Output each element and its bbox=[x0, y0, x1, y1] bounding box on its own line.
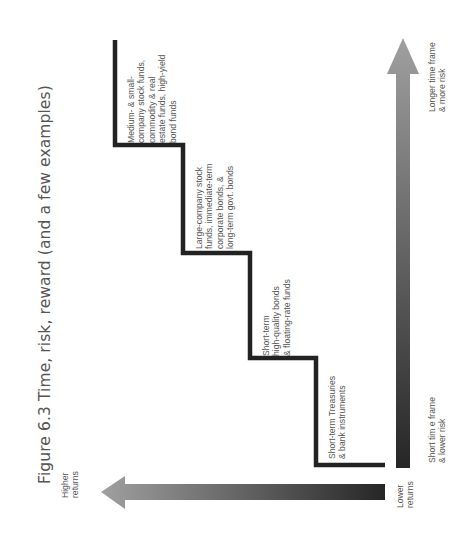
diagram-canvas bbox=[0, 0, 470, 536]
returns-arrow-icon bbox=[101, 476, 385, 509]
short-time-lower-risk-label: Short tim e frame & lower risk bbox=[427, 397, 448, 463]
longer-time-more-risk-label: Longer time frame & more risk bbox=[427, 42, 448, 112]
lower-returns-label: Lower returns bbox=[395, 481, 416, 508]
time-risk-arrow-icon bbox=[387, 38, 419, 468]
step-1-label: Short-term Treasuries & bank instruments bbox=[327, 376, 348, 459]
figure-title: Figure 6.3 Time, risk, reward (and a few… bbox=[36, 85, 54, 484]
step-4-label: Medium- & small- company stock funds, co… bbox=[126, 55, 178, 143]
higher-returns-label: Higher returns bbox=[60, 471, 81, 498]
step-3-label: Large-company stock funds, immediate-ter… bbox=[194, 164, 236, 250]
step-2-label: Short-term high-quality bonds & floating… bbox=[261, 279, 292, 356]
